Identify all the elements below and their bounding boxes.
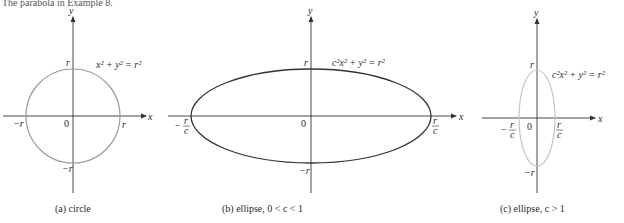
x-axis-label: x — [458, 111, 464, 122]
svg-text:−: − — [175, 120, 181, 131]
header-text: The parabola in Example 8. — [2, 0, 113, 8]
bottom-label: −r — [524, 167, 535, 178]
right-fraction-label: r c — [432, 115, 439, 136]
right-label: r — [122, 119, 126, 130]
svg-text:c: c — [184, 125, 189, 136]
y-axis-label: y — [533, 7, 539, 18]
origin-label: 0 — [64, 118, 69, 129]
y-axis-label: y — [68, 5, 74, 16]
caption: (a) circle — [55, 203, 91, 215]
svg-text:−: − — [501, 124, 507, 135]
x-axis-label: x — [597, 113, 603, 124]
panel-c-ellipse: y x 0 r −r − r c r c c²x² + y² = r² (c) … — [482, 7, 606, 215]
bottom-label: −r — [299, 165, 310, 176]
caption: (c) ellipse, c > 1 — [500, 203, 565, 215]
left-fraction-label: − r c — [175, 115, 190, 136]
svg-text:c: c — [557, 129, 562, 140]
top-label: r — [530, 59, 534, 70]
panel-b-ellipse: y x 0 r −r − r c r c c²x² + y² = r² (b) … — [168, 5, 464, 215]
equation: c²x² + y² = r² — [552, 69, 606, 80]
left-fraction-label: − r c — [501, 119, 516, 140]
panel-a-circle: y x 0 r −r −r r x² + y² = r² (a) circle — [3, 5, 153, 215]
top-label: r — [304, 57, 308, 68]
top-label: r — [66, 57, 70, 68]
equation: x² + y² = r² — [95, 59, 142, 70]
equation: c²x² + y² = r² — [332, 57, 386, 68]
svg-text:c: c — [510, 129, 515, 140]
y-axis-label: y — [307, 5, 313, 16]
bottom-label: −r — [62, 163, 73, 174]
origin-label: 0 — [301, 118, 306, 129]
origin-label: 0 — [527, 121, 532, 132]
left-label: −r — [13, 118, 24, 129]
x-axis-label: x — [147, 111, 153, 122]
svg-text:c: c — [433, 125, 438, 136]
conic-figure: The parabola in Example 8. y x 0 r −r −r… — [0, 0, 624, 223]
right-fraction-label: r c — [556, 119, 563, 140]
caption: (b) ellipse, 0 < c < 1 — [222, 203, 303, 215]
